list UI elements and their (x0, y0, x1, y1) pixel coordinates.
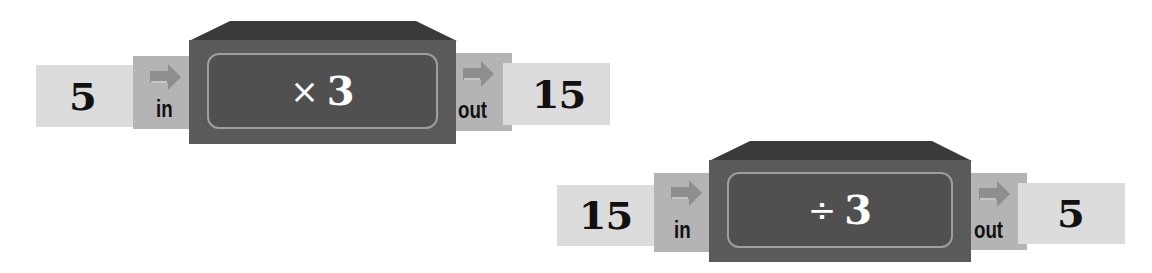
input-card: 15 (557, 185, 662, 246)
arrow-right-icon (671, 180, 703, 206)
arrow-right-icon (979, 181, 1011, 207)
function-machine-divide: 15 in ÷ 3 out 5 (0, 0, 1152, 273)
operand-value: 3 (844, 190, 872, 230)
output-card: 5 (1018, 183, 1125, 244)
output-value: 5 (1057, 192, 1084, 235)
input-value: 15 (579, 194, 633, 237)
in-port: in (654, 173, 709, 252)
machine-lid (709, 141, 972, 162)
operation-panel: ÷ 3 (727, 172, 953, 248)
out-label: out (974, 218, 1003, 242)
in-label: in (674, 218, 691, 242)
divide-operator: ÷ (808, 193, 837, 227)
